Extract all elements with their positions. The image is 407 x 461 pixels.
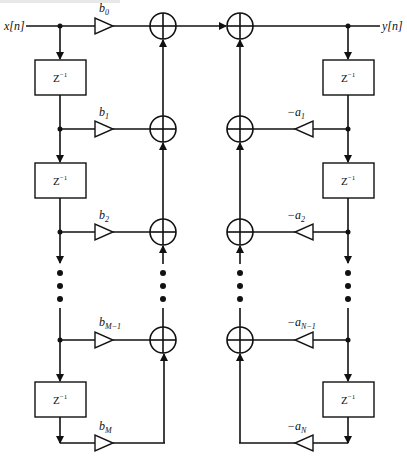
svg-text:−a1: −a1	[287, 105, 305, 121]
gain-b-m: bM	[95, 419, 113, 451]
adder-ff-0	[150, 13, 176, 39]
svg-text:bM−1: bM−1	[99, 315, 121, 331]
adder-ff-2	[150, 219, 176, 245]
delay-right-2: Z−1	[323, 163, 374, 198]
adder-ff-m-minus-1	[150, 327, 176, 353]
delay-left-m: Z−1	[35, 382, 86, 417]
adder-fb-n-minus-1	[227, 327, 253, 353]
input-label: x[n]	[3, 19, 25, 33]
delay-right-1: Z−1	[323, 60, 374, 95]
adder-fb-0	[227, 13, 253, 39]
adder-ff-1	[150, 116, 176, 142]
gain-b2: b2	[95, 208, 113, 240]
gain-neg-a-n: −aN	[287, 419, 313, 451]
output-label: y[n]	[381, 19, 403, 33]
svg-text:b2: b2	[99, 208, 109, 224]
delay-right-n: Z−1	[323, 382, 374, 417]
delay-left-1: Z−1	[35, 60, 86, 95]
adder-fb-2	[227, 219, 253, 245]
ellipsis-left-adders	[160, 270, 166, 302]
delay-left-2: Z−1	[35, 163, 86, 198]
svg-text:bM: bM	[99, 419, 113, 435]
gain-neg-a2: −a2	[287, 208, 313, 240]
svg-text:−a2: −a2	[287, 208, 305, 224]
ellipsis-right-delay	[345, 270, 351, 302]
svg-text:−aN−1: −aN−1	[287, 315, 316, 331]
iir-direct-form-1-diagram: x[n] b0 y[n] Z−1 b1 Z−1	[0, 0, 407, 461]
gain-b-m-minus-1: bM−1	[95, 315, 121, 348]
adder-fb-1	[227, 116, 253, 142]
gain-b1: b1	[95, 105, 113, 137]
gain-neg-a1: −a1	[287, 105, 313, 137]
svg-text:−aN: −aN	[287, 419, 307, 435]
gain-b0: b0	[95, 1, 113, 34]
ellipsis-right-adders	[237, 270, 243, 302]
ellipsis-left-delay	[57, 270, 63, 302]
gain-label-b0: b0	[99, 1, 109, 17]
gain-neg-a-n-minus-1: −aN−1	[287, 315, 316, 348]
svg-text:b1: b1	[99, 105, 109, 121]
